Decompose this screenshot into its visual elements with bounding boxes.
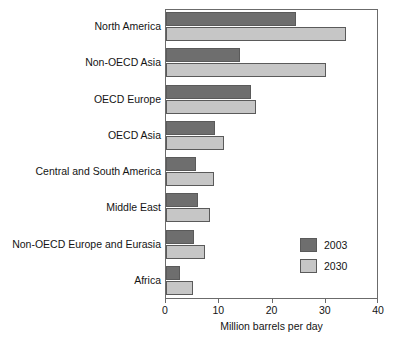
y-axis-label: Africa [0,275,161,286]
bar-2003 [166,230,194,244]
bar-2003 [166,157,196,171]
x-tick-mark [165,299,166,303]
bar-group [166,191,377,227]
legend-label: 2030 [324,260,347,272]
bar-2030 [166,100,256,114]
bar-group [166,119,377,155]
legend-item: 2030 [300,255,366,276]
bar-chart: North AmericaNon-OECD AsiaOECD EuropeOEC… [0,0,393,341]
bar-2003 [166,266,180,280]
legend-swatch-icon [300,259,317,273]
x-tick-label: 0 [162,304,168,316]
y-axis-label: Central and South America [0,166,161,177]
bar-group [166,46,377,82]
bar-group [166,155,377,191]
x-tick-mark [272,299,273,303]
bar-group [166,83,377,119]
bar-2003 [166,12,296,26]
legend-item: 2003 [300,234,366,255]
x-axis-title: Million barrels per day [165,320,378,332]
x-tick-label: 20 [266,304,278,316]
bar-2030 [166,136,224,150]
bar-group [166,10,377,46]
x-tick-label: 40 [372,304,384,316]
y-axis-label: Non-OECD Asia [0,57,161,68]
x-tick-mark [325,299,326,303]
x-tick-label: 10 [212,304,224,316]
bar-2030 [166,245,205,259]
x-tick-mark [377,299,378,303]
bar-2030 [166,63,326,77]
y-axis-label: Middle East [0,202,161,213]
chart-legend: 20032030 [300,234,366,276]
bar-2003 [166,193,198,207]
legend-label: 2003 [324,239,347,251]
y-axis-label: OECD Europe [0,94,161,105]
x-tick-label: 30 [319,304,331,316]
bar-2003 [166,85,251,99]
y-axis-label: OECD Asia [0,130,161,141]
bar-2003 [166,48,240,62]
bar-2003 [166,121,215,135]
x-axis-tick-labels: 010203040 [0,304,393,318]
x-tick-mark [218,299,219,303]
y-axis-labels: North AmericaNon-OECD AsiaOECD EuropeOEC… [0,9,161,299]
legend-swatch-icon [300,238,317,252]
bar-2030 [166,27,346,41]
bar-2030 [166,281,193,295]
bar-2030 [166,172,214,186]
y-axis-label: North America [0,21,161,32]
y-axis-label: Non-OECD Europe and Eurasia [0,239,161,250]
bar-2030 [166,208,210,222]
